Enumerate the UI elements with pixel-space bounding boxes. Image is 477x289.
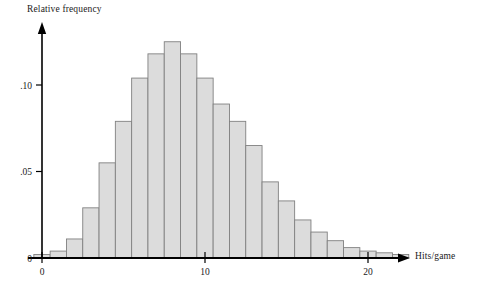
histogram-bar: [344, 248, 360, 258]
x-tick-label: 10: [200, 267, 210, 277]
histogram-bar: [66, 239, 82, 258]
y-tick-label: 0: [27, 254, 32, 264]
histogram-bar: [99, 163, 115, 258]
histogram-bar: [115, 121, 131, 258]
histogram-plot: 0.05.1001020: [0, 0, 477, 289]
histogram-bar: [164, 42, 180, 258]
histogram-bar: [262, 182, 278, 258]
histogram-bar: [132, 78, 148, 258]
x-axis-title: Hits/game: [415, 251, 455, 261]
histogram-bar: [295, 220, 311, 258]
histogram-bar: [181, 54, 197, 258]
histogram-bar: [246, 146, 262, 258]
histogram-bar: [83, 208, 99, 258]
histogram-bar: [213, 104, 229, 258]
histogram-bar: [197, 78, 213, 258]
y-tick-label: .05: [20, 167, 32, 177]
histogram-bar: [229, 121, 245, 258]
histogram-bar: [327, 241, 343, 258]
histogram-bar: [148, 54, 164, 258]
histogram-figure: 0.05.1001020 Relative frequency Hits/gam…: [0, 0, 477, 289]
histogram-bar: [278, 201, 294, 258]
y-axis-title: Relative frequency: [27, 4, 102, 14]
y-tick-label: .10: [20, 81, 32, 91]
y-axis-arrowhead: [38, 22, 46, 34]
histogram-bar: [50, 251, 66, 258]
bars-group: [34, 42, 409, 258]
histogram-bar: [311, 232, 327, 258]
x-tick-label: 20: [363, 267, 373, 277]
x-tick-label: 0: [40, 267, 45, 277]
